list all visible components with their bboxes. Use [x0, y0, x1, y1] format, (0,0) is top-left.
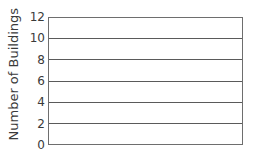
gridline-10	[49, 38, 242, 39]
y-tick-8: 8	[25, 54, 45, 66]
gridline-6	[49, 81, 242, 82]
y-axis-label: Number of Buildings	[6, 21, 21, 141]
y-tick-10: 10	[25, 32, 45, 44]
y-tick-2: 2	[25, 118, 45, 130]
y-tick-6: 6	[25, 75, 45, 87]
plot-area	[48, 17, 243, 145]
gridline-8	[49, 59, 242, 60]
y-tick-12: 12	[25, 11, 45, 23]
y-tick-4: 4	[25, 96, 45, 108]
gridline-4	[49, 102, 242, 103]
gridline-2	[49, 123, 242, 124]
y-tick-0: 0	[25, 139, 45, 151]
